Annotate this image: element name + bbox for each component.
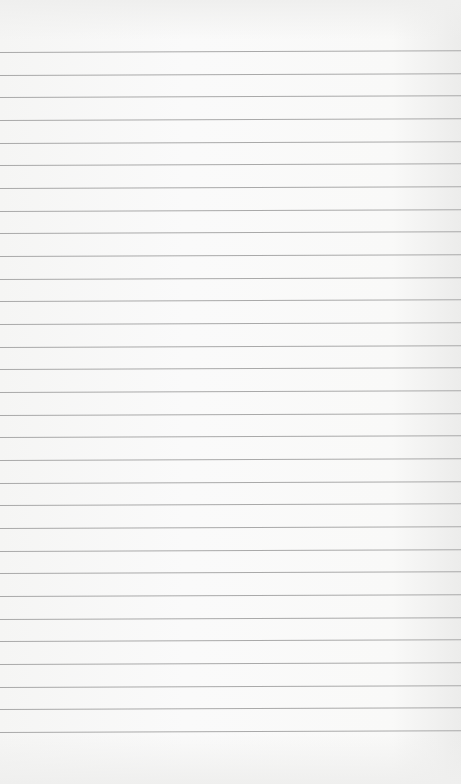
ruled-line xyxy=(0,436,461,439)
ruled-line xyxy=(0,118,461,121)
ruled-line xyxy=(0,300,461,303)
ruled-line xyxy=(0,390,461,393)
ruled-line xyxy=(0,73,461,76)
ruled-line xyxy=(0,368,461,371)
lined-paper-sheet xyxy=(0,0,461,784)
ruled-line xyxy=(0,526,461,529)
ruled-line xyxy=(0,141,461,144)
ruled-line xyxy=(0,730,461,733)
ruled-line xyxy=(0,413,461,416)
ruled-line xyxy=(0,254,461,257)
ruled-line xyxy=(0,322,461,325)
ruled-line xyxy=(0,164,461,167)
ruled-line xyxy=(0,186,461,189)
ruled-line xyxy=(0,481,461,484)
ruled-line xyxy=(0,549,461,552)
ruled-line xyxy=(0,662,461,665)
ruled-line xyxy=(0,640,461,643)
ruled-line xyxy=(0,708,461,711)
ruled-line xyxy=(0,504,461,507)
ruled-line xyxy=(0,685,461,688)
paper-shadow-bottom xyxy=(0,734,461,784)
ruled-line xyxy=(0,572,461,575)
ruled-line xyxy=(0,209,461,212)
ruled-line xyxy=(0,594,461,597)
ruled-line xyxy=(0,458,461,461)
ruled-line xyxy=(0,345,461,348)
ruled-line xyxy=(0,232,461,235)
ruled-line xyxy=(0,50,461,53)
paper-shadow-top xyxy=(0,0,461,40)
ruled-line xyxy=(0,617,461,620)
ruled-line xyxy=(0,96,461,99)
ruled-line xyxy=(0,277,461,280)
